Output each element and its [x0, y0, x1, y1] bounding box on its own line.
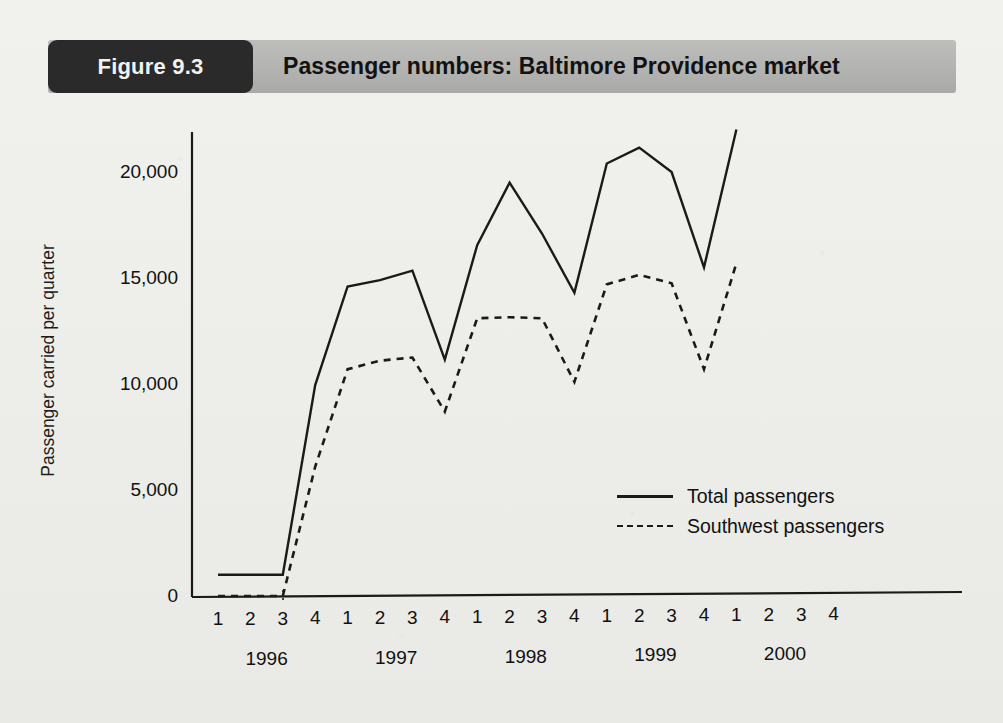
- x-axis-quarter-label-0: 1: [205, 608, 231, 630]
- x-axis-quarter-label-17: 2: [756, 604, 782, 626]
- x-axis-year-label-1996: 1996: [222, 648, 312, 670]
- x-axis-quarter-label-11: 4: [561, 605, 587, 627]
- legend-item-total-passengers: Total passengers: [617, 481, 884, 511]
- legend-label-southwest-passengers: Southwest passengers: [687, 515, 884, 538]
- x-axis-quarter-label-13: 2: [626, 605, 652, 627]
- x-axis-quarter-label-2: 3: [270, 608, 296, 630]
- x-axis-year-label-1998: 1998: [481, 646, 571, 668]
- legend-label-total-passengers: Total passengers: [687, 485, 834, 508]
- series-line-southwest-passengers: [218, 263, 736, 596]
- x-axis-quarter-label-18: 3: [788, 604, 814, 626]
- x-axis-quarter-label-4: 1: [335, 607, 361, 629]
- x-axis-quarter-label-10: 3: [529, 606, 555, 628]
- x-axis-quarter-label-5: 2: [367, 607, 393, 629]
- chart-legend: Total passengers Southwest passengers: [617, 481, 884, 541]
- x-axis-quarter-label-1: 2: [237, 608, 263, 630]
- x-axis-quarter-label-3: 4: [302, 607, 328, 629]
- x-axis-quarter-label-19: 4: [821, 603, 847, 625]
- x-axis-quarter-label-16: 1: [723, 604, 749, 626]
- x-axis-year-label-1999: 1999: [610, 644, 700, 666]
- x-axis-quarter-label-9: 2: [497, 606, 523, 628]
- legend-swatch-dashed-line-icon: [617, 519, 673, 533]
- x-axis-line: [192, 592, 962, 597]
- x-axis-quarter-label-14: 3: [659, 605, 685, 627]
- legend-item-southwest-passengers: Southwest passengers: [617, 511, 884, 541]
- chart-container: Passenger carried per quarter 05,00010,0…: [0, 0, 1003, 723]
- legend-swatch-solid-line-icon: [617, 489, 673, 503]
- x-axis-quarter-label-15: 4: [691, 604, 717, 626]
- x-axis-quarter-label-7: 4: [432, 606, 458, 628]
- x-axis-year-label-1997: 1997: [351, 647, 441, 669]
- x-axis-quarter-label-8: 1: [464, 606, 490, 628]
- x-axis-quarter-label-6: 3: [399, 607, 425, 629]
- x-axis-quarter-label-12: 1: [594, 605, 620, 627]
- x-axis-year-label-2000: 2000: [740, 643, 830, 665]
